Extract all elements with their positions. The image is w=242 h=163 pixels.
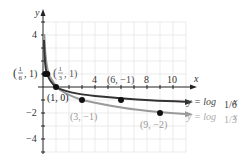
label-nine-neg2: (9, −2)	[140, 119, 167, 131]
label-one-zero: (1, 0)	[47, 92, 69, 104]
x-tick-4: 4	[92, 74, 97, 85]
label-six-neg1: (6, −1)	[107, 74, 134, 86]
svg-text:(: (	[53, 66, 57, 80]
svg-text:y = log: y = log	[186, 111, 216, 122]
y-axis-label: y	[34, 7, 40, 18]
point-nine-neg2	[157, 110, 163, 116]
svg-text:x: x	[232, 96, 238, 107]
x-tick-10: 10	[167, 74, 177, 85]
point-one-third-one	[44, 71, 50, 77]
svg-text:x: x	[232, 111, 238, 122]
equation-log-one-third: y = log 1/3 x	[186, 111, 238, 125]
svg-text:, 1): , 1)	[24, 68, 37, 80]
svg-text:1: 1	[59, 65, 63, 73]
y-tick-4: 4	[32, 29, 37, 40]
point-one-zero	[53, 84, 59, 90]
x-tick-8: 8	[144, 74, 149, 85]
svg-text:1: 1	[19, 65, 23, 73]
y-tick-neg2: −2	[26, 107, 37, 118]
log-graph: y x 4 8 10 4 −2 −4 ( 1 6 , 1) ( 1 3 , 1)…	[0, 0, 242, 163]
point-six-neg1	[118, 97, 124, 103]
label-one-sixth-one: ( 1 6 , 1)	[13, 65, 37, 82]
svg-text:y = log: y = log	[186, 96, 216, 107]
y-tick-neg4: −4	[26, 133, 37, 144]
label-one-third-one: ( 1 3 , 1)	[53, 65, 77, 82]
equation-log-one-sixth: y = log 1/6 x	[186, 96, 238, 110]
point-three-neg1	[79, 97, 85, 103]
svg-text:3: 3	[59, 74, 63, 82]
svg-text:, 1): , 1)	[64, 68, 77, 80]
label-three-neg1: (3, −1)	[70, 111, 97, 123]
svg-text:(: (	[13, 66, 17, 80]
svg-text:6: 6	[19, 74, 23, 82]
x-axis-label: x	[193, 73, 199, 84]
